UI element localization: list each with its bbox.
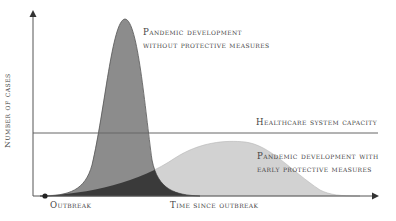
y-axis-label: Number of cases [3,73,12,148]
outbreak-dot [42,193,47,198]
annotation-with-line1: Pandemic development with [257,150,379,163]
capacity-label: Healthcare system capacity [256,116,377,129]
annotation-with-line2: early protective measures [257,163,379,176]
y-axis-arrow-icon [30,10,37,17]
annotation-with-measures: Pandemic development with early protecti… [257,150,379,176]
annotation-without-line1: Pandemic development [143,26,270,39]
x-axis-label: Time since outbreak [170,199,259,212]
outbreak-label: Outbreak [50,199,91,212]
annotation-without-line2: without protective measures [143,39,270,52]
x-axis-arrow-icon [372,193,379,200]
annotation-without-measures: Pandemic development without protective … [143,26,270,52]
